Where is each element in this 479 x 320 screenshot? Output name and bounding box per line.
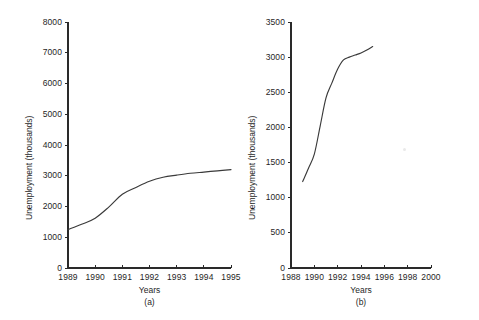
y-tick-label: 7000 xyxy=(26,48,62,57)
y-tick-label: 2000 xyxy=(249,123,285,132)
chart-panel-a: Unemployment (thousands) Years (a) 01000… xyxy=(0,0,235,320)
x-axis-title-b: Years xyxy=(321,285,401,295)
scan-speck xyxy=(403,148,406,151)
y-tick-label: 500 xyxy=(249,228,285,237)
y-tick-label: 1000 xyxy=(249,193,285,202)
y-tick-label: 0 xyxy=(249,264,285,273)
panel-caption-a: (a) xyxy=(110,297,190,307)
panel-caption-b: (b) xyxy=(321,297,401,307)
y-tick-label: 6000 xyxy=(26,79,62,88)
y-tick-label: 4000 xyxy=(26,141,62,150)
y-tick-label: 1500 xyxy=(249,158,285,167)
y-tick-label: 3500 xyxy=(249,18,285,27)
figure-canvas: Unemployment (thousands) Years (a) 01000… xyxy=(0,0,479,320)
y-tick-label: 8000 xyxy=(26,18,62,27)
y-tick-label: 3000 xyxy=(249,53,285,62)
y-tick-label: 5000 xyxy=(26,110,62,119)
y-tick-label: 1000 xyxy=(26,233,62,242)
x-axis-title-a: Years xyxy=(110,285,190,295)
y-tick-label: 2000 xyxy=(26,202,62,211)
y-tick-label: 3000 xyxy=(26,171,62,180)
y-tick-label: 0 xyxy=(26,264,62,273)
x-tick-label: 2000 xyxy=(415,273,447,282)
chart-panel-b: Unemployment (thousands) Years (b) 05001… xyxy=(235,0,479,320)
y-tick-label: 2500 xyxy=(249,88,285,97)
